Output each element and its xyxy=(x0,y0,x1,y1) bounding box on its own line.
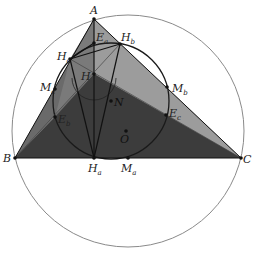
label-ha: Ha xyxy=(87,162,102,177)
point-ha xyxy=(92,156,96,160)
point-h xyxy=(92,72,96,76)
point-eb xyxy=(53,115,57,119)
label-a: A xyxy=(89,4,98,17)
geometry-diagram: A B C H N O Ha Hb Hc Ma Mb Mc Ea Eb Ec xyxy=(0,0,256,255)
label-n: N xyxy=(113,96,124,109)
label-ma: Ma xyxy=(120,162,136,177)
label-mb: Mb xyxy=(171,82,188,97)
label-hb: Hb xyxy=(120,31,136,46)
label-h: H xyxy=(80,70,91,83)
point-n xyxy=(109,99,113,103)
label-b: B xyxy=(2,152,11,165)
label-hc: Hc xyxy=(56,50,71,65)
label-mc: Mc xyxy=(39,81,55,96)
point-ma xyxy=(126,156,130,160)
point-ec xyxy=(164,113,168,117)
point-a xyxy=(92,17,96,21)
label-o: O xyxy=(120,133,129,146)
diagram-canvas: A B C H N O Ha Hb Hc Ma Mb Mc Ea Eb Ec xyxy=(0,0,256,255)
label-c: C xyxy=(243,153,252,166)
point-mb xyxy=(165,85,169,89)
point-b xyxy=(13,156,17,160)
